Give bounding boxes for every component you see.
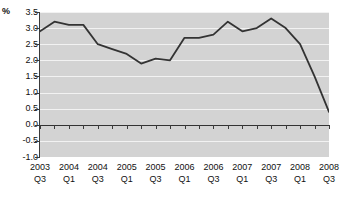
x-tick-mark [242, 125, 243, 129]
x-tick-mark [185, 125, 186, 129]
x-tick-label: 2008Q3 [309, 161, 344, 185]
y-tick-mark [35, 28, 39, 29]
y-tick-mark [35, 109, 39, 110]
series-line [40, 12, 329, 157]
x-tick-mark [156, 125, 157, 129]
x-tick-label-quarter: Q3 [309, 173, 344, 185]
x-tick-mark [286, 125, 287, 129]
plot-area [40, 12, 329, 157]
y-tick-mark [35, 157, 39, 158]
y-tick-mark [35, 125, 39, 126]
y-tick-mark [35, 141, 39, 142]
y-axis-unit-label: % [2, 6, 10, 16]
x-tick-mark [141, 125, 142, 129]
x-tick-mark [271, 125, 272, 129]
x-tick-mark [199, 125, 200, 129]
x-tick-mark [170, 125, 171, 129]
x-tick-mark [257, 125, 258, 129]
x-tick-mark [54, 125, 55, 129]
x-tick-mark [112, 125, 113, 129]
x-tick-mark [300, 125, 301, 129]
x-tick-mark [83, 125, 84, 129]
x-tick-mark [127, 125, 128, 129]
y-tick-mark [35, 12, 39, 13]
x-tick-mark [69, 125, 70, 129]
x-tick-mark [315, 125, 316, 129]
x-tick-mark [228, 125, 229, 129]
x-tick-mark [40, 125, 41, 129]
y-tick-mark [35, 44, 39, 45]
y-tick-mark [35, 93, 39, 94]
x-tick-mark [213, 125, 214, 129]
x-tick-mark [98, 125, 99, 129]
chart-title [0, 0, 338, 2]
y-tick-mark [35, 60, 39, 61]
y-tick-mark [35, 76, 39, 77]
x-tick-label-year: 2008 [309, 161, 344, 173]
x-tick-mark [329, 125, 330, 129]
x-axis-labels: 2003Q32004Q12004Q32005Q12005Q32006Q12006… [0, 161, 338, 195]
